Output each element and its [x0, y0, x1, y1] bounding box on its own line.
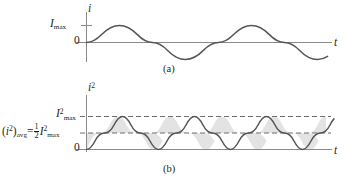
panel-b-avg-equals: =	[27, 125, 34, 137]
panel-b-shade-below-2	[136, 133, 163, 150]
panel-a-imax-label: Imax	[50, 18, 66, 31]
panel-a-x-axis-label: t	[334, 37, 337, 49]
panel-b-avg-fraction-denominator: 2	[34, 131, 38, 140]
panel-a-plot	[76, 12, 332, 62]
panel-a-y-axis-symbol: i	[88, 2, 91, 14]
panel-a-caption: (a)	[163, 64, 175, 75]
panel-a-imax-subscript: max	[54, 23, 66, 31]
panel-b-avg-fraction: 12	[34, 123, 38, 141]
panel-a-y-axis-label: i	[88, 3, 91, 15]
panel-b-avg-I-subscript: max	[47, 131, 59, 139]
panel-b-x-axis-symbol: t	[334, 144, 337, 156]
panel-b-average-label: (i2)avg=12I2max	[2, 123, 60, 141]
panel-a-x-axis-symbol: t	[334, 36, 337, 48]
panel-b-y-axis-label: i2	[88, 82, 95, 94]
panel-b-origin-label: 0	[74, 142, 80, 154]
panel-b-x-axis-label: t	[334, 145, 337, 157]
panel-b-caption: (b)	[163, 164, 175, 175]
panel-b-shade-above-5	[308, 117, 326, 134]
panel-b-shade-below-3	[188, 133, 215, 150]
figure-container: Imax 0 i t (a) i2 I2max (i2)avg=12I2max …	[0, 0, 348, 184]
panel-b-avg-subscript: avg	[17, 131, 27, 139]
panel-b-plot	[76, 95, 334, 152]
panel-a-origin-label: 0	[74, 35, 80, 47]
panel-b-shade-above-3	[204, 117, 240, 134]
panel-b-y-axis-exponent: 2	[91, 81, 95, 90]
panel-b-avg-fraction-numerator: 1	[34, 123, 38, 131]
panel-b-peak-subscript: max	[64, 114, 76, 122]
panel-b-peak-label: I2max	[56, 108, 76, 122]
